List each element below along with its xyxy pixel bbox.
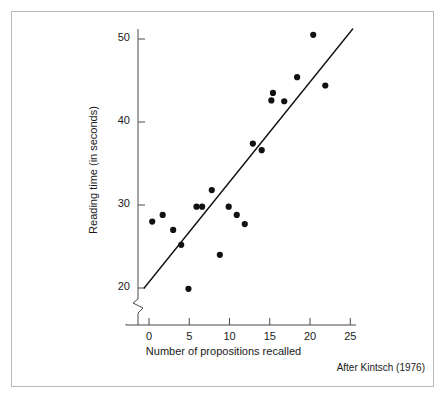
data-point	[185, 286, 191, 292]
x-tick-label: 5	[169, 330, 209, 342]
data-point	[170, 227, 176, 233]
data-point	[199, 204, 205, 210]
fit-line-segment	[144, 29, 352, 288]
y-axis-title: Reading time (in seconds)	[87, 70, 99, 270]
data-point	[268, 97, 274, 103]
axes-group	[126, 29, 356, 325]
regression-line	[144, 29, 352, 288]
data-point	[209, 187, 215, 193]
data-point	[149, 219, 155, 225]
data-point	[281, 98, 287, 104]
data-point	[250, 140, 256, 146]
tick-marks-group	[138, 39, 350, 325]
x-tick-label: 20	[290, 330, 330, 342]
data-point	[259, 147, 265, 153]
data-points-group	[149, 32, 328, 292]
data-point	[242, 221, 248, 227]
y-tick-label: 20	[92, 280, 130, 292]
x-axis-title: Number of propositions recalled	[0, 345, 447, 357]
source-attribution: After Kintsch (1976)	[337, 362, 425, 373]
data-point	[270, 90, 276, 96]
x-tick-label: 15	[250, 330, 290, 342]
data-point	[178, 242, 184, 248]
x-tick-label: 0	[129, 330, 169, 342]
data-point	[234, 212, 240, 218]
y-axis-break-symbol	[133, 299, 143, 313]
data-point	[160, 212, 166, 218]
data-point	[226, 204, 232, 210]
figure-container: 50403020 0510152025 Reading time (in sec…	[0, 0, 447, 401]
data-point	[193, 204, 199, 210]
data-point	[217, 252, 223, 258]
data-point	[322, 82, 328, 88]
data-point	[294, 74, 300, 80]
x-tick-label: 25	[330, 330, 370, 342]
x-tick-label: 10	[210, 330, 250, 342]
data-point	[310, 32, 316, 38]
y-tick-label: 50	[92, 31, 130, 43]
